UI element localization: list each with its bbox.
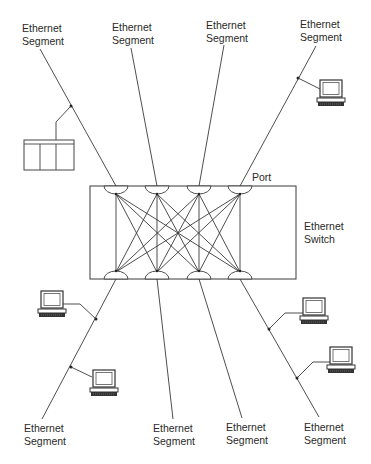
bottom-segment-4-label-line2: Segment [304,434,346,446]
top-segment-3-cable [199,45,224,186]
drop-cable [297,362,330,378]
bottom-segment-1-label-line1: Ethernet [24,422,64,434]
computer-icon [300,298,328,324]
bottom-segment-2-cable [157,279,173,419]
bottom-segment-2-label-line1: Ethernet [153,422,193,434]
ethernet-switch: Port Ethernet Switch [90,171,344,279]
top-segment-4-label-line2: Segment [300,31,342,43]
panel-device-icon [24,140,74,170]
top-segment-2-cable [131,48,157,186]
drop-cable [298,78,320,89]
bottom-segment-1-label-line2: Segment [24,435,66,447]
top-segment-3-label-line1: Ethernet [206,19,246,31]
top-segment-2-label-line2: Segment [112,34,154,46]
bottom-segment-3-label-line1: Ethernet [226,421,266,433]
drop-cable [63,304,96,319]
top-segment-4-cable [240,46,316,186]
top-segment-3-label-line2: Segment [206,32,248,44]
ethernet-switch-diagram: Ethernet Segment Ethernet Segment Ethern… [0,0,371,464]
bottom-segment-4-label-line1: Ethernet [304,421,344,433]
bottom-segment-1: Ethernet Segment [24,279,118,447]
top-segment-1-label-line1: Ethernet [22,22,62,34]
top-segment-4-label-line1: Ethernet [300,18,340,30]
switch-label-line2: Switch [304,233,335,245]
computer-icon [38,291,66,317]
top-segment-1-label-line2: Segment [22,35,64,47]
bottom-segment-2-label-line2: Segment [153,435,195,447]
bottom-segment-3: Ethernet Segment [199,279,268,446]
top-segment-3: Ethernet Segment [199,19,248,186]
bottom-segment-2: Ethernet Segment [153,279,195,447]
top-segment-2-label-line1: Ethernet [112,21,152,33]
top-segment-1: Ethernet Segment [22,22,116,186]
bottom-segment-3-label-line2: Segment [226,434,268,446]
bottom-segment-3-cable [199,279,242,418]
computer-icon [317,80,345,106]
switch-label-line1: Ethernet [304,220,344,232]
top-segment-2: Ethernet Segment [112,21,157,186]
drop-cable [269,313,303,329]
drop-cable [71,367,92,377]
computer-icon [327,347,355,373]
computer-icon [90,370,118,396]
top-segment-4: Ethernet Segment [240,18,345,186]
port-label: Port [252,171,271,183]
drop-cable [56,106,71,140]
